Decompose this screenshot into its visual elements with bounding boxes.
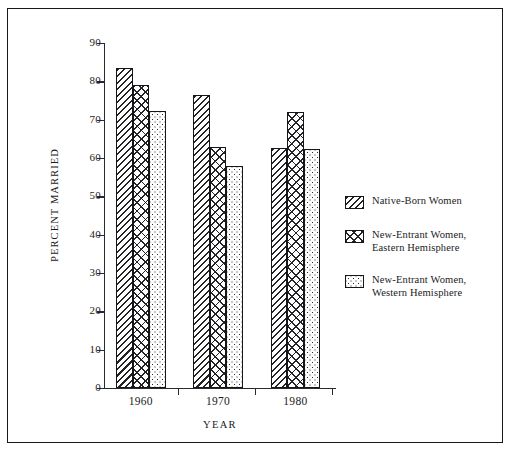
bar-1960-series-2 (133, 85, 150, 388)
bar-1960-series-3 (149, 111, 166, 388)
bar-1970-series-3 (226, 166, 243, 388)
legend-swatch-diagonal-hatch-icon (345, 196, 364, 209)
y-tick-label: 80 (90, 73, 101, 88)
x-tick-mark (178, 388, 179, 395)
legend-item-2: New-Entrant Women, Eastern Hemisphere (345, 229, 510, 254)
y-tick-label: 60 (90, 150, 101, 165)
x-axis-line (104, 388, 336, 389)
y-tick-label: 30 (90, 265, 101, 280)
legend-label: New-Entrant Women, Eastern Hemisphere (372, 229, 466, 254)
x-tick-mark (255, 388, 256, 395)
y-tick-label: 20 (90, 303, 101, 318)
legend-item-1: Native-Born Women (345, 195, 510, 209)
x-tick-label-1970: 1970 (188, 395, 248, 407)
y-tick-label: 90 (90, 35, 101, 50)
figure-border: PERCENT MARRIED 0102030405060708090 1960… (7, 8, 503, 443)
bar-1980-series-3 (304, 149, 321, 388)
bar-1960-series-1 (116, 68, 133, 388)
y-tick-label: 10 (90, 342, 101, 357)
x-axis-title: YEAR (104, 419, 336, 430)
legend-label: Native-Born Women (372, 195, 462, 208)
y-axis-line (104, 43, 105, 388)
bar-1980-series-1 (271, 148, 288, 388)
y-tick-label: 70 (90, 112, 101, 127)
x-tick-mark (332, 388, 333, 395)
bar-1970-series-2 (210, 147, 227, 389)
legend-label: New-Entrant Women, Western Hemisphere (372, 274, 466, 299)
plot-area: 0102030405060708090 196019701980 (104, 43, 336, 388)
x-tick-label-1960: 1960 (111, 395, 171, 407)
chart-legend: Native-Born WomenNew-Entrant Women, East… (345, 195, 510, 319)
y-axis-title: PERCENT MARRIED (49, 148, 60, 262)
y-tick-label: 40 (90, 227, 101, 242)
legend-swatch-cross-hatch-icon (345, 230, 364, 243)
y-tick-label: 0 (95, 380, 101, 395)
legend-item-3: New-Entrant Women, Western Hemisphere (345, 274, 510, 299)
x-tick-label-1980: 1980 (265, 395, 325, 407)
bar-1980-series-2 (287, 112, 304, 388)
legend-swatch-stipple-dots-icon (345, 275, 364, 288)
y-tick-label: 50 (90, 188, 101, 203)
bar-1970-series-1 (193, 95, 210, 388)
